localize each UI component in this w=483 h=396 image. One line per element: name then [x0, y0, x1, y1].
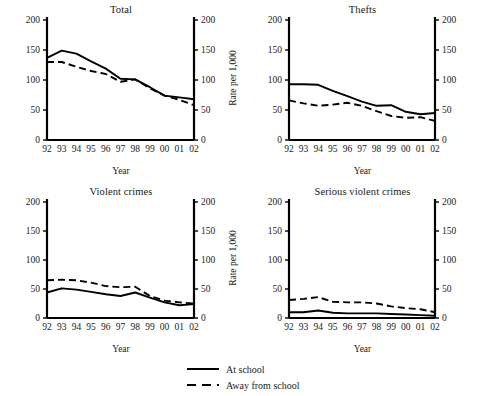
x-axis-label: Year — [242, 166, 483, 176]
legend-label: At school — [226, 364, 265, 375]
y-tick-label-right: 100 — [442, 75, 457, 85]
legend-items: At school Away from school — [186, 362, 300, 392]
x-tick-label: 02 — [189, 144, 199, 154]
y-axis-label: Rate per 1,000 — [228, 38, 238, 118]
chart-legend: At school Away from school — [0, 362, 483, 396]
y-tick-label: 100 — [268, 255, 283, 265]
series-line-dashed — [47, 62, 194, 105]
x-tick-label: 01 — [175, 144, 185, 154]
x-tick-label: 98 — [130, 322, 140, 332]
y-tick-label-right: 150 — [201, 45, 216, 55]
y-tick-label-right: 50 — [201, 284, 211, 294]
panel-grid: Total 0050501001001501502002009293949596… — [0, 0, 483, 360]
y-tick-label-right: 100 — [201, 255, 216, 265]
x-tick-label: 95 — [86, 322, 96, 332]
x-tick-label: 00 — [160, 144, 170, 154]
chart-panel-total: Total 0050501001001501502002009293949596… — [0, 0, 242, 182]
y-tick-label: 0 — [277, 313, 282, 323]
y-tick-label-right: 100 — [201, 75, 216, 85]
y-tick-label: 200 — [26, 15, 41, 25]
y-tick-label-right: 100 — [442, 255, 457, 265]
legend-swatch-solid-icon — [186, 364, 220, 374]
y-tick-label: 150 — [268, 45, 283, 55]
y-tick-label: 0 — [35, 135, 40, 145]
y-axis-label: Rate per 1,000 — [228, 218, 238, 298]
x-tick-label: 94 — [313, 322, 323, 332]
x-tick-label: 97 — [116, 144, 126, 154]
y-tick-label: 50 — [273, 284, 283, 294]
y-tick-label: 0 — [277, 135, 282, 145]
y-tick-label: 50 — [31, 105, 41, 115]
x-tick-label: 02 — [189, 322, 199, 332]
y-tick-label-right: 200 — [442, 197, 457, 207]
series-line-solid — [47, 288, 194, 305]
y-tick-label: 200 — [268, 15, 283, 25]
legend-item-at-school: At school — [186, 362, 300, 376]
x-tick-label: 92 — [284, 144, 294, 154]
plot-area: 0050501001001501502002009293949596979899… — [0, 182, 242, 360]
axis-lines — [289, 199, 435, 318]
y-tick-label: 100 — [268, 75, 283, 85]
y-tick-label: 50 — [273, 105, 283, 115]
x-tick-label: 99 — [386, 322, 396, 332]
x-tick-label: 97 — [357, 322, 367, 332]
x-tick-label: 93 — [57, 144, 67, 154]
y-tick-label: 150 — [268, 226, 283, 236]
x-tick-label: 92 — [284, 322, 294, 332]
x-tick-label: 95 — [86, 144, 96, 154]
y-tick-label-right: 200 — [201, 15, 216, 25]
chart-figure: Total 0050501001001501502002009293949596… — [0, 0, 483, 396]
x-tick-label: 94 — [313, 144, 323, 154]
x-tick-label: 00 — [401, 144, 411, 154]
axis-lines — [289, 17, 435, 140]
plot-area: 0050501001001501502002009293949596979899… — [242, 182, 483, 360]
x-tick-label: 97 — [357, 144, 367, 154]
x-tick-label: 01 — [416, 322, 426, 332]
plot-area: 0050501001001501502002009293949596979899… — [242, 0, 483, 182]
x-axis-label: Year — [242, 344, 483, 354]
series-line-dashed — [289, 100, 435, 120]
x-tick-label: 98 — [130, 144, 140, 154]
chart-panel-violent-crimes: Violent crimes 0050501001001501502002009… — [0, 182, 242, 360]
y-tick-label-right: 150 — [442, 45, 457, 55]
x-tick-label: 99 — [386, 144, 396, 154]
y-tick-label-right: 0 — [201, 135, 206, 145]
legend-label: Away from school — [226, 380, 300, 391]
x-tick-label: 96 — [343, 322, 353, 332]
y-tick-label-right: 150 — [201, 226, 216, 236]
y-tick-label: 150 — [26, 45, 41, 55]
x-tick-label: 97 — [116, 322, 126, 332]
y-tick-label: 50 — [31, 284, 41, 294]
x-tick-label: 96 — [343, 144, 353, 154]
x-tick-label: 99 — [145, 322, 155, 332]
y-tick-label-right: 150 — [442, 226, 457, 236]
x-tick-label: 01 — [416, 144, 426, 154]
y-tick-label-right: 50 — [201, 105, 211, 115]
x-tick-label: 02 — [430, 322, 440, 332]
y-tick-label-right: 0 — [201, 313, 206, 323]
series-line-dashed — [47, 280, 194, 304]
x-axis-label: Year — [0, 166, 242, 176]
x-tick-label: 93 — [57, 322, 67, 332]
series-line-dashed — [289, 297, 435, 312]
y-tick-label-right: 0 — [442, 135, 447, 145]
x-tick-label: 99 — [145, 144, 155, 154]
y-tick-label-right: 200 — [201, 197, 216, 207]
legend-swatch-dashed-icon — [186, 380, 220, 390]
x-tick-label: 94 — [72, 322, 82, 332]
x-tick-label: 93 — [299, 144, 309, 154]
y-tick-label: 0 — [35, 313, 40, 323]
series-line-solid — [289, 84, 435, 114]
axis-lines — [47, 199, 194, 318]
x-tick-label: 95 — [328, 144, 338, 154]
x-tick-label: 92 — [42, 322, 52, 332]
y-tick-label: 100 — [26, 75, 41, 85]
x-tick-label: 98 — [372, 144, 382, 154]
chart-panel-serious-violent-crimes: Serious violent crimes 00505010010015015… — [242, 182, 483, 360]
x-tick-label: 02 — [430, 144, 440, 154]
x-tick-label: 96 — [101, 322, 111, 332]
chart-panel-thefts: Thefts 005050100100150150200200929394959… — [242, 0, 483, 182]
x-tick-label: 00 — [401, 322, 411, 332]
y-tick-label: 200 — [268, 197, 283, 207]
legend-item-away-from-school: Away from school — [186, 378, 300, 392]
